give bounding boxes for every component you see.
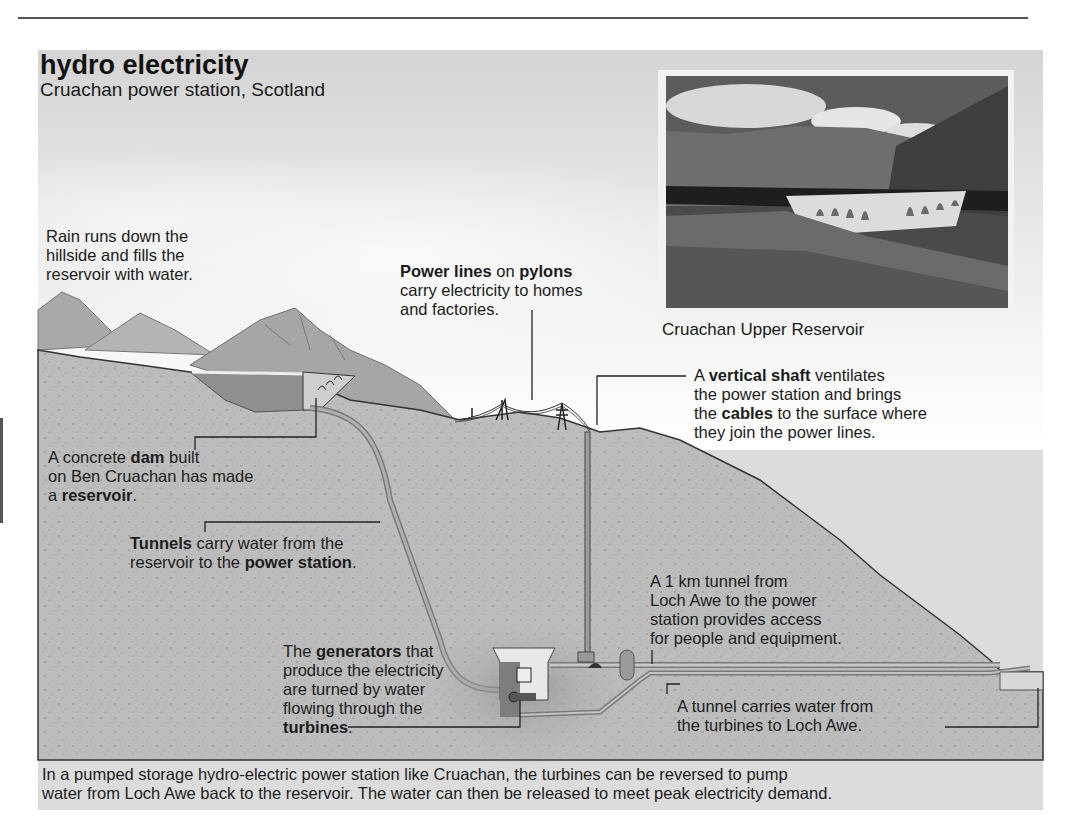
label-power-lines: Power lines on pylons carry electricity … [400, 262, 582, 319]
label-access-tunnel: A 1 km tunnel from Loch Awe to the power… [650, 572, 842, 648]
label-tunnels: Tunnels carry water from the reservoir t… [130, 534, 357, 572]
label-tailrace: A tunnel carries water from the turbines… [677, 697, 873, 735]
vertical-shaft [585, 432, 590, 662]
loch-awe [1000, 672, 1043, 690]
generator [517, 668, 531, 682]
footer-note: In a pumped storage hydro-electric power… [42, 765, 832, 803]
label-dam: A concrete dam built on Ben Cruachan has… [48, 448, 253, 505]
diagram-title: hydro electricity [40, 50, 249, 80]
label-rain: Rain runs down the hillside and fills th… [46, 227, 193, 284]
reservoir-photo [666, 76, 1008, 308]
label-vertical-shaft: A vertical shaft ventilates the power st… [694, 366, 927, 442]
photo-caption: Cruachan Upper Reservoir [662, 320, 864, 340]
surge-chamber [620, 650, 634, 680]
label-generators: The generators that produce the electric… [254, 642, 444, 737]
diagram-subtitle: Cruachan power station, Scotland [40, 79, 325, 101]
